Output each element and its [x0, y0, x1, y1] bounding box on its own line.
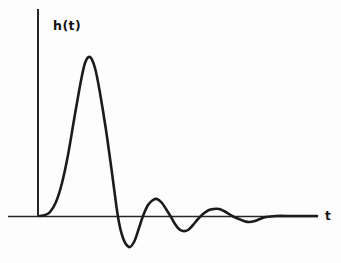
- figure-canvas: h(t) t: [0, 0, 341, 263]
- y-axis-label: h(t): [53, 18, 81, 33]
- impulse-response-figure: h(t) t: [0, 0, 341, 263]
- impulse-response-curve: [40, 57, 317, 247]
- x-axis-label: t: [325, 209, 331, 223]
